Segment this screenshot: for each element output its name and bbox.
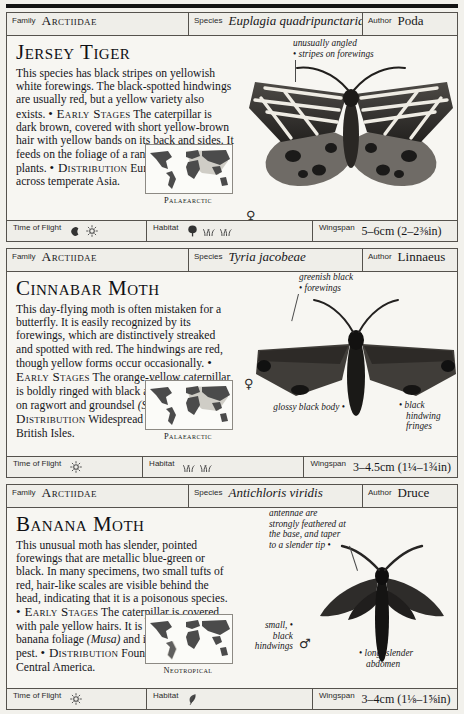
family-cell: Family Arctiidae <box>7 13 189 35</box>
forewing-stripes-annotation: unusually angled • stripes on forewings <box>293 38 374 59</box>
description-run: • Early Stages <box>48 106 130 121</box>
entry-footer: Time of Flight Habitat <box>7 220 457 241</box>
habitat-cell: Habitat <box>143 457 304 477</box>
description-run: This day-flying moth is often mistaken f… <box>16 303 223 370</box>
family-label: Family <box>12 488 36 497</box>
habitat-label: Habitat <box>149 459 174 468</box>
species-entry: Family Arctiidae Species Euplagia quadri… <box>6 12 458 242</box>
entry-body: Banana Moth This unusual moth has slende… <box>7 508 457 688</box>
time-of-flight-label: Time of Flight <box>13 459 61 468</box>
annotation-line: black <box>229 631 293 642</box>
sex-symbol: ♂ <box>299 636 311 651</box>
species-entry: Family Arctiidae Species Antichloris vir… <box>6 484 458 710</box>
author-cell: Author Druce <box>363 485 457 507</box>
field-guide-page: Family Arctiidae Species Euplagia quadri… <box>0 0 464 714</box>
species-label: Species <box>194 16 222 25</box>
author-label: Author <box>368 16 392 25</box>
time-of-flight-icons <box>70 693 82 705</box>
wingspan-label: Wingspan <box>319 691 355 700</box>
wingspan-label: Wingspan <box>310 459 346 468</box>
author-label: Author <box>368 488 392 497</box>
author-value: Druce <box>398 485 430 501</box>
forewing-color-annotation: greenish black • forewings <box>299 272 353 293</box>
grass-icon <box>200 463 212 472</box>
annotation-line: • black <box>399 400 441 411</box>
map-caption: Neotropical <box>145 666 231 675</box>
wingspan-label: Wingspan <box>319 223 355 232</box>
leaf-icon <box>187 693 198 705</box>
specimen-illustration <box>243 36 459 222</box>
species-label: Species <box>194 488 222 497</box>
world-map-svg <box>146 381 232 429</box>
grass-icon <box>203 227 215 236</box>
body-annotation: glossy black body • <box>247 402 345 413</box>
author-cell: Author Linnaeus <box>363 249 457 271</box>
species-entry: Family Arctiidae Species Tyria jacobeae … <box>6 248 458 478</box>
description-run: • Distribution <box>40 645 118 660</box>
habitat-icons <box>187 693 198 705</box>
world-map-svg <box>146 145 232 193</box>
entry-footer: Time of Flight Habitat <box>7 688 457 709</box>
time-of-flight-label: Time of Flight <box>13 223 61 232</box>
habitat-label: Habitat <box>153 223 178 232</box>
family-value: Arctiidae <box>42 249 97 265</box>
taxonomy-header: Family Arctiidae Species Euplagia quadri… <box>7 13 457 36</box>
annotation-line: the base, and taper <box>269 529 346 540</box>
wingspan-cell: Wingspan 3–4cm (1⅛–1⅝in) <box>313 689 457 709</box>
sun-icon <box>70 693 82 705</box>
grass-icon <box>220 227 232 236</box>
species-cell: Species Tyria jacobeae <box>189 249 363 271</box>
hindwings-annotation: small, • black hindwings <box>229 620 293 652</box>
sun-icon <box>86 225 98 237</box>
author-value: Poda <box>398 13 424 29</box>
author-value: Linnaeus <box>398 249 446 265</box>
annotation-line: unusually angled <box>293 38 374 49</box>
annotation-line: • stripes on forewings <box>293 49 374 60</box>
entry-body: Cinnabar Moth This day-flying moth is of… <box>7 272 457 456</box>
leader-line <box>295 60 296 82</box>
species-value: Tyria jacobeae <box>228 249 305 265</box>
world-map-svg <box>146 615 232 663</box>
description-run: This unusual moth has slender, pointed f… <box>16 539 228 605</box>
moon-icon <box>70 226 81 237</box>
wingspan-cell: Wingspan 3–4.5cm (1¼–1¾in) <box>304 457 457 477</box>
species-cell: Species Antichloris viridis <box>189 485 363 507</box>
time-of-flight-label: Time of Flight <box>13 691 61 700</box>
grass-icon <box>183 463 195 472</box>
family-value: Arctiidae <box>42 13 97 29</box>
time-of-flight-icons <box>70 225 98 237</box>
map-image <box>145 144 233 194</box>
annotation-line: antennae are <box>269 508 346 519</box>
annotation-line: small, • <box>229 620 293 631</box>
family-cell: Family Arctiidae <box>7 485 189 507</box>
annotation-line: to a slender tip • <box>269 540 346 551</box>
hindwing-fringe-annotation: • black hindwing fringes <box>399 400 441 432</box>
page-title: Cinnabar Moth <box>16 278 234 300</box>
annotation-line: hindwings <box>229 641 293 652</box>
description-run: • Early Stages <box>16 604 98 619</box>
sex-symbol: ♀ <box>244 376 254 391</box>
habitat-cell: Habitat <box>147 221 313 241</box>
description-run: (Musa) <box>87 633 121 646</box>
antennae-annotation: antennae are strongly feathered at the b… <box>269 508 346 550</box>
annotation-line: abdomen <box>359 659 413 670</box>
family-label: Family <box>12 252 36 261</box>
distribution-map: Palaearctic <box>145 380 231 441</box>
habitat-icons <box>183 463 212 472</box>
map-image <box>145 614 233 664</box>
wingspan-cell: Wingspan 5–6cm (2–2⅜in) <box>313 221 457 241</box>
entry-footer: Time of Flight Habitat <box>7 456 457 477</box>
page-title: Banana Moth <box>16 514 234 536</box>
family-cell: Family Arctiidae <box>7 249 189 271</box>
annotation-line: glossy black body <box>273 402 339 412</box>
species-value: Antichloris viridis <box>228 485 322 501</box>
tree-icon <box>187 225 198 237</box>
annotation-line: hindwing <box>399 411 441 422</box>
species-cell: Species Euplagia quadripunctaria <box>189 13 363 35</box>
time-of-flight-icons <box>70 461 82 473</box>
sun-icon <box>70 461 82 473</box>
taxonomy-header: Family Arctiidae Species Tyria jacobeae … <box>7 249 457 272</box>
habitat-cell: Habitat <box>147 689 313 709</box>
author-label: Author <box>368 252 392 261</box>
habitat-icons <box>187 225 232 237</box>
